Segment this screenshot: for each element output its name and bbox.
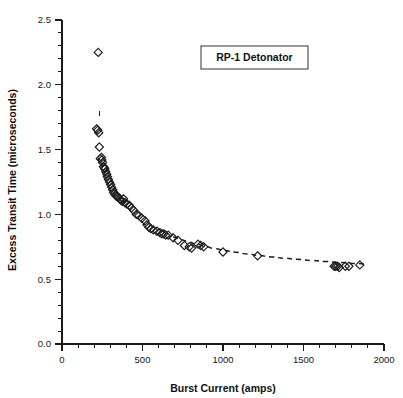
data-point-marker (356, 261, 364, 269)
y-tick-label: 0.0 (38, 338, 51, 349)
y-axis-major-ticks (55, 20, 62, 344)
data-point-marker (94, 48, 102, 56)
y-tick-label: 1.5 (38, 144, 51, 155)
y-axis-minor-ticks (58, 33, 62, 331)
y-tick-label: 2.5 (38, 14, 51, 25)
scatter-plot: 0.00.51.01.52.02.5 0500100015002000 Burs… (0, 0, 403, 398)
y-axis-tick-labels: 0.00.51.01.52.02.5 (38, 14, 51, 349)
x-tick-label: 0 (59, 354, 64, 365)
annotation-label: RP-1 Detonator (216, 51, 292, 63)
y-tick-label: 0.5 (38, 274, 51, 285)
chart-figure: 0.00.51.01.52.02.5 0500100015002000 Burs… (0, 0, 403, 398)
y-tick-label: 2.0 (38, 79, 51, 90)
fitted-trend-curve (173, 237, 368, 264)
data-point-marker (254, 252, 262, 260)
y-tick-label: 1.0 (38, 209, 51, 220)
x-tick-label: 2000 (373, 354, 394, 365)
y-axis-title: Excess Transit Time (microseconds) (6, 89, 18, 271)
x-axis-title: Burst Current (amps) (170, 382, 276, 394)
x-tick-label: 1500 (293, 354, 314, 365)
x-axis-tick-labels: 0500100015002000 (59, 354, 394, 365)
data-point-markers (93, 48, 364, 271)
x-tick-label: 1000 (212, 354, 233, 365)
x-tick-label: 500 (135, 354, 151, 365)
data-point-marker (95, 143, 103, 151)
